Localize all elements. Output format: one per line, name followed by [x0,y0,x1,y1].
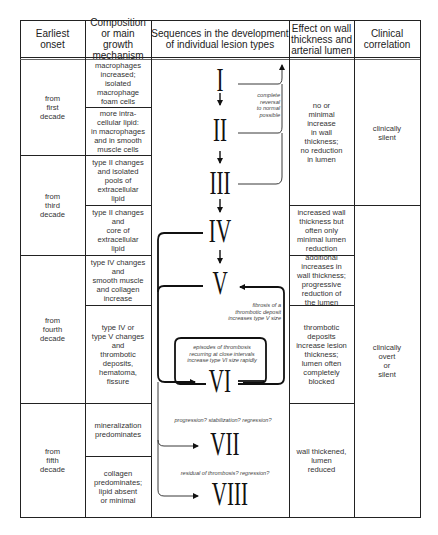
lesion-type-III: III [201,166,238,200]
lesion-type-IV: IV [201,214,238,248]
branch-arrow-icon [158,382,198,496]
lesion-type-VIII: VIII [205,477,255,511]
lesion-type-II: II [205,113,236,147]
reversal-arrow-icon [238,65,282,184]
lesion-type-I: I [205,63,236,97]
note-reversal: complete reversal to normal possible [246,92,280,118]
lesion-type-VII: VII [203,427,246,461]
lesion-type-V: V [205,266,236,300]
lesion-type-VI: VI [205,364,236,398]
note-progression: progression? stabilization? regression? [160,417,286,424]
note-fibrosis: fibrosis of a thrombotic deposit increas… [215,302,281,322]
note-episodes: episodes of thrombosis recurring at clos… [180,344,264,364]
note-residual: residual of thrombosis? regression? [170,470,280,477]
